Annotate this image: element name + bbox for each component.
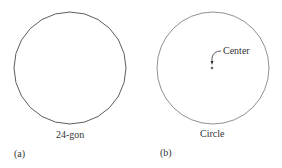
center-label: Center	[223, 45, 250, 56]
diagram-canvas	[0, 0, 282, 168]
panel-label-b: (b)	[160, 147, 172, 158]
24-gon-shape	[14, 12, 126, 124]
panel-label-a: (a)	[14, 148, 25, 159]
arrow-head-icon	[211, 61, 214, 65]
shape-label-24-gon: 24-gon	[56, 129, 84, 140]
center-point	[211, 67, 214, 70]
shape-label-circle: Circle	[200, 128, 224, 139]
